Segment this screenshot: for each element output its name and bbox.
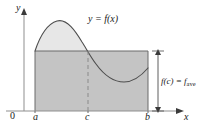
average-height-label: f(c) = fave — [161, 77, 196, 86]
x-axis-arrow-icon — [176, 108, 184, 114]
tick-label-b: b — [145, 112, 150, 122]
region-above-average-line — [35, 21, 88, 51]
tick-label-a: a — [33, 112, 38, 122]
figure-container: y x 0 a c b y = f(x) f(c) = fave — [0, 0, 201, 134]
origin-label: 0 — [10, 111, 15, 121]
average-height-label-main: f(c) = f — [161, 76, 187, 86]
x-axis-label: x — [184, 112, 188, 122]
y-axis-label: y — [16, 3, 20, 13]
height-measure-arrow-top-icon — [155, 49, 161, 55]
average-height-label-subscript: ave — [187, 80, 196, 87]
height-measure-arrow-bottom-icon — [155, 107, 161, 113]
tick-label-c: c — [85, 112, 89, 122]
y-axis-arrow-icon — [21, 8, 27, 15]
curve-label: y = f(x) — [88, 14, 118, 24]
